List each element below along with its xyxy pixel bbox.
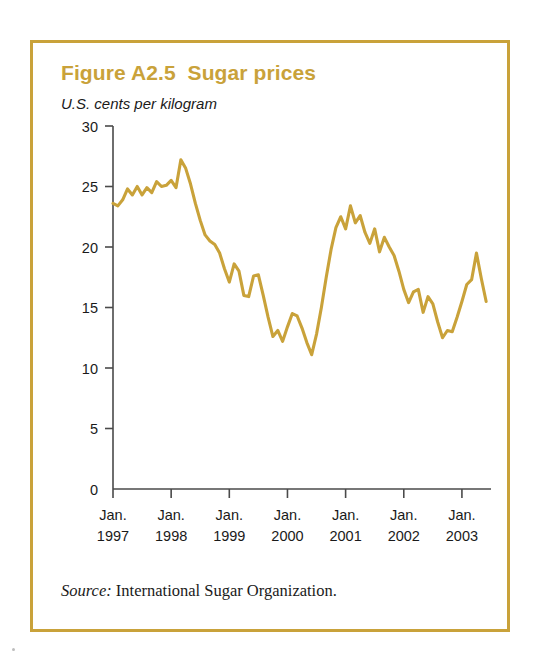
source-label: Source: bbox=[61, 581, 112, 600]
x-tick-1999-month: Jan. bbox=[216, 507, 243, 523]
y-tick-10-label: 10 bbox=[82, 361, 98, 377]
y-tick-0-label: 0 bbox=[90, 482, 98, 498]
x-tick-2000-month: Jan. bbox=[274, 507, 301, 523]
x-tick-2002-month: Jan. bbox=[390, 507, 417, 523]
y-tick-15-label: 15 bbox=[82, 300, 98, 316]
sugar-prices-line-chart: 051015202530Jan.1997Jan.1998Jan.1999Jan.… bbox=[47, 121, 497, 571]
x-tick-1997-month: Jan. bbox=[99, 507, 126, 523]
x-tick-2001-month: Jan. bbox=[332, 507, 359, 523]
x-tick-1999-year: 1999 bbox=[213, 528, 245, 544]
figure-subtitle: U.S. cents per kilogram bbox=[61, 95, 217, 112]
x-tick-2003-year: 2003 bbox=[446, 528, 478, 544]
x-tick-2003-month: Jan. bbox=[448, 507, 475, 523]
x-tick-2000-year: 2000 bbox=[271, 528, 303, 544]
data-series-0 bbox=[113, 160, 486, 355]
y-tick-20-label: 20 bbox=[82, 240, 98, 256]
source-note: Source: International Sugar Organization… bbox=[61, 581, 337, 601]
scan-speck bbox=[12, 648, 15, 651]
x-tick-2002-year: 2002 bbox=[388, 528, 420, 544]
page-title: Figure A2.5 Sugar prices bbox=[61, 61, 316, 85]
y-tick-25-label: 25 bbox=[82, 179, 98, 195]
x-tick-1998-month: Jan. bbox=[157, 507, 184, 523]
x-tick-2001-year: 2001 bbox=[329, 528, 361, 544]
y-tick-30-label: 30 bbox=[82, 121, 98, 135]
x-tick-1998-year: 1998 bbox=[155, 528, 187, 544]
y-tick-5-label: 5 bbox=[90, 421, 98, 437]
source-text: International Sugar Organization. bbox=[112, 581, 337, 600]
page-root: Figure A2.5 Sugar prices U.S. cents per … bbox=[0, 0, 548, 660]
figure-frame: Figure A2.5 Sugar prices U.S. cents per … bbox=[30, 40, 510, 632]
x-tick-1997-year: 1997 bbox=[97, 528, 129, 544]
